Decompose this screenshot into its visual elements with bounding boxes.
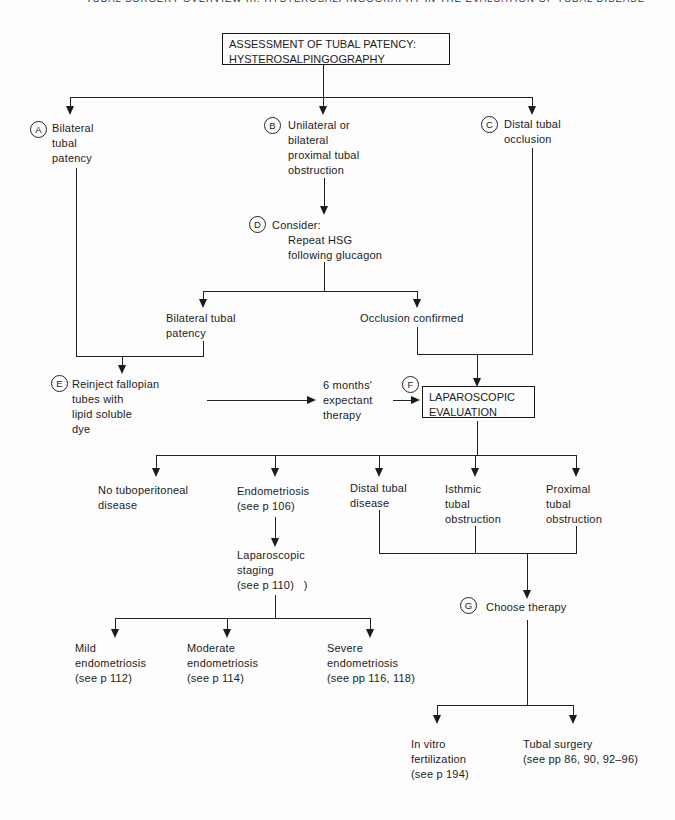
label-choose-therapy: Choose therapy bbox=[486, 600, 566, 615]
flow-line bbox=[576, 526, 577, 553]
arrow-down-icon bbox=[271, 538, 279, 547]
flow-line bbox=[379, 510, 380, 553]
flow-line bbox=[76, 168, 77, 356]
flow-line bbox=[417, 327, 418, 354]
flow-line bbox=[275, 595, 276, 618]
flow-line bbox=[532, 148, 533, 354]
flowchart-page: TUBAL SURGERY OVERVIEW III: HYSTEROSALPI… bbox=[0, 0, 675, 820]
arrow-down-icon bbox=[569, 715, 577, 724]
flow-line bbox=[207, 400, 307, 401]
flow-line bbox=[437, 705, 574, 706]
label-severe-endometriosis: Severe endometriosis (see pp 116, 118) bbox=[327, 641, 415, 686]
arrow-down-icon bbox=[471, 468, 479, 477]
flow-line bbox=[576, 455, 577, 468]
flow-line bbox=[477, 421, 478, 455]
step-letter-d: D bbox=[249, 216, 266, 233]
arrow-down-icon bbox=[523, 590, 531, 599]
label-moderate-endometriosis: Moderate endometriosis (see p 114) bbox=[187, 641, 258, 686]
flow-line bbox=[573, 705, 574, 715]
flow-line bbox=[227, 618, 228, 629]
label-step-d-body: Repeat HSG following glucagon bbox=[288, 233, 382, 263]
flow-line bbox=[379, 455, 380, 468]
label-proximal-obstruction: Proximal tubal obstruction bbox=[546, 482, 602, 527]
arrow-down-icon bbox=[199, 299, 207, 308]
label-isthmic-obstruction: Isthmic tubal obstruction bbox=[445, 482, 501, 527]
step-letter-a: A bbox=[30, 121, 47, 138]
label-step-e: Reinject fallopian tubes with lipid solu… bbox=[72, 377, 159, 437]
flow-line bbox=[122, 356, 123, 365]
flow-line bbox=[477, 354, 478, 378]
arrow-down-icon bbox=[111, 629, 119, 638]
step-letter-e: E bbox=[51, 375, 68, 392]
flow-line bbox=[70, 97, 533, 98]
arrow-down-icon bbox=[223, 629, 231, 638]
laparoscopic-evaluation-box: LAPAROSCOPIC EVALUATION bbox=[422, 386, 535, 418]
flow-line bbox=[70, 97, 71, 106]
flow-line bbox=[203, 291, 417, 292]
label-ivf: In vitro fertilization (see p 194) bbox=[411, 737, 469, 782]
flow-line bbox=[324, 262, 325, 291]
label-step-c: Distal tubal occlusion bbox=[504, 117, 561, 147]
flow-line bbox=[156, 455, 577, 456]
flow-line bbox=[475, 455, 476, 468]
flow-line bbox=[203, 341, 204, 356]
flow-line bbox=[393, 400, 411, 401]
flow-line bbox=[379, 553, 577, 554]
arrow-down-icon bbox=[320, 206, 328, 215]
arrow-down-icon bbox=[528, 106, 536, 115]
flow-line bbox=[532, 97, 533, 106]
flow-line bbox=[437, 705, 438, 715]
arrow-down-icon bbox=[572, 468, 580, 477]
label-endometriosis: Endometriosis (see p 106) bbox=[237, 484, 309, 514]
label-laparoscopic-staging: Laparoscopic staging (see p 110) ) bbox=[237, 548, 308, 593]
label-expectant-therapy: 6 months' expectant therapy bbox=[323, 378, 373, 423]
flow-line bbox=[275, 455, 276, 468]
label-step-d-title: Consider: bbox=[272, 218, 321, 233]
flow-line bbox=[323, 64, 324, 97]
flow-line bbox=[527, 553, 528, 590]
flow-line bbox=[324, 178, 325, 206]
flow-line bbox=[417, 291, 418, 299]
arrow-down-icon bbox=[66, 106, 74, 115]
arrow-right-icon bbox=[307, 396, 316, 404]
flow-line bbox=[527, 620, 528, 705]
arrow-right-icon bbox=[411, 396, 420, 404]
flow-line bbox=[115, 618, 116, 629]
label-tubal-surgery: Tubal surgery (see pp 86, 90, 92–96) bbox=[523, 737, 638, 767]
label-occlusion-confirmed: Occlusion confirmed bbox=[360, 311, 463, 326]
flow-line bbox=[475, 526, 476, 553]
label-distal-tubal-disease: Distal tubal disease bbox=[350, 481, 407, 511]
label-no-tuboperitoneal: No tuboperitoneal disease bbox=[98, 483, 188, 513]
arrow-down-icon bbox=[152, 468, 160, 477]
flow-line bbox=[115, 618, 371, 619]
arrow-down-icon bbox=[433, 715, 441, 724]
arrow-down-icon bbox=[271, 468, 279, 477]
arrow-down-icon bbox=[319, 106, 327, 115]
arrow-down-icon bbox=[375, 468, 383, 477]
label-step-a: Bilateral tubal patency bbox=[52, 121, 94, 166]
step-letter-c: C bbox=[481, 116, 498, 133]
arrow-down-icon bbox=[366, 629, 374, 638]
label-step-b: Unilateral or bilateral proximal tubal o… bbox=[288, 118, 359, 178]
step-letter-g: G bbox=[460, 597, 477, 614]
arrow-down-icon bbox=[413, 299, 421, 308]
flow-line bbox=[323, 97, 324, 106]
flow-line bbox=[156, 455, 157, 468]
step-letter-f: F bbox=[402, 376, 419, 393]
arrow-down-icon bbox=[118, 365, 126, 374]
step-letter-b: B bbox=[264, 117, 281, 134]
flow-line bbox=[417, 354, 533, 355]
flow-line bbox=[370, 618, 371, 629]
flow-line bbox=[76, 356, 204, 357]
title-box: ASSESSMENT OF TUBAL PATENCY: HYSTEROSALP… bbox=[222, 33, 450, 65]
running-head: TUBAL SURGERY OVERVIEW III: HYSTEROSALPI… bbox=[86, 0, 645, 4]
label-mild-endometriosis: Mild endometriosis (see p 112) bbox=[75, 641, 146, 686]
flow-line bbox=[203, 291, 204, 299]
label-bilateral-patency: Bilateral tubal patency bbox=[166, 311, 236, 341]
flow-line bbox=[275, 517, 276, 538]
